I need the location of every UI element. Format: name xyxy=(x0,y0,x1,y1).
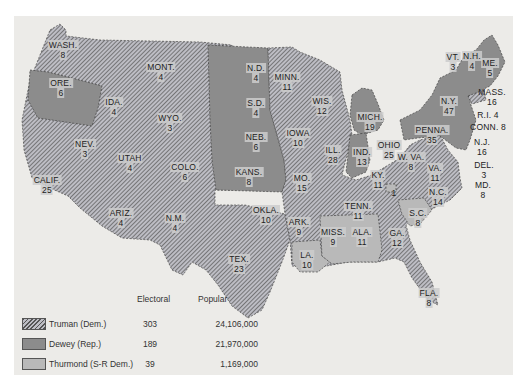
state-label: W. VA.8 xyxy=(397,152,426,172)
state-votes: 3 xyxy=(450,62,457,72)
state-votes: 10 xyxy=(292,138,304,148)
state-label: PENNA.35 xyxy=(415,125,450,145)
state-label: VA.11 xyxy=(427,163,443,183)
state-votes: 6 xyxy=(58,88,65,98)
dark-gray-swatch-icon xyxy=(22,338,46,350)
legend-electoral: 189 xyxy=(140,339,160,349)
state-name: IDA. xyxy=(104,97,123,107)
state-label: OKLA.10 xyxy=(252,205,280,225)
state-callout: MASS. 16 xyxy=(478,87,505,107)
state-callout: R.I. 4 xyxy=(477,110,499,120)
state-callout: CONN. 8 xyxy=(470,122,506,132)
state-votes: 19 xyxy=(364,122,376,132)
state-name: VT. xyxy=(446,52,461,62)
state-name: UTAH xyxy=(117,153,142,163)
state-votes: 9 xyxy=(296,227,303,237)
state-votes: 15 xyxy=(296,183,308,193)
state-votes: 10 xyxy=(260,215,272,225)
state-callout: MD. 8 xyxy=(475,180,491,200)
legend-candidate: Dewey (Rep.) xyxy=(49,339,101,349)
state-name: LA. xyxy=(299,250,314,260)
state-votes: 4 xyxy=(253,108,260,118)
state-label: IOWA10 xyxy=(285,128,310,148)
state-votes: 23 xyxy=(233,264,245,274)
state-name: WASH. xyxy=(48,40,79,50)
state-name: MISS. xyxy=(320,227,346,237)
state-label: LA.10 xyxy=(299,250,314,270)
state-votes: 47 xyxy=(443,106,455,116)
state-votes: 4 xyxy=(172,223,179,233)
state-name: PENNA. xyxy=(415,125,450,135)
state-votes: 8 xyxy=(246,177,253,187)
state-label: IND.13 xyxy=(352,147,372,167)
state-label: UTAH4 xyxy=(117,153,142,173)
state-name: OKLA. xyxy=(252,205,280,215)
state-name: NEB. xyxy=(245,132,268,142)
state-label: COLO.6 xyxy=(170,162,199,182)
state-name: ME. xyxy=(481,58,499,68)
state-votes: 5 xyxy=(487,68,494,78)
state-label: KY.11 xyxy=(370,170,385,190)
state-votes: 8 xyxy=(60,50,67,60)
state-votes: 6 xyxy=(253,142,260,152)
state-name: TEX. xyxy=(228,254,250,264)
state-votes: 12 xyxy=(316,106,328,116)
state-label: ARIZ.4 xyxy=(109,208,134,228)
state-callout: DEL. 3 xyxy=(474,160,494,180)
state-votes: 6 xyxy=(182,172,189,182)
state-votes: 4 xyxy=(118,218,125,228)
state-name: CALIF. xyxy=(33,175,62,185)
state-label: N.D.4 xyxy=(246,63,266,83)
state-votes: 12 xyxy=(391,238,403,248)
state-votes: 11 xyxy=(356,237,367,247)
state-label: ME.5 xyxy=(481,58,499,78)
state-name: COLO. xyxy=(170,162,199,172)
state-label: GA.12 xyxy=(388,228,405,248)
state-name: WIS. xyxy=(311,96,332,106)
state-label: MISS.9 xyxy=(320,227,346,247)
state-votes: 11 xyxy=(281,82,292,92)
state-name: W. VA. xyxy=(397,152,426,162)
state-name: NEV. xyxy=(74,139,96,149)
light-gray-swatch-icon xyxy=(22,358,46,370)
state-name: MONT. xyxy=(146,62,175,72)
state-label: FLA.8 xyxy=(419,288,440,308)
state-label: N.Y.47 xyxy=(440,96,458,116)
state-label: CALIF.25 xyxy=(33,175,62,195)
state-label: ILL.28 xyxy=(325,145,342,165)
hatched-swatch-icon xyxy=(22,318,46,330)
state-label: N.C.14 xyxy=(428,187,448,207)
state-votes: 14 xyxy=(432,197,444,207)
state-votes: 3 xyxy=(82,149,89,159)
legend-popular: 21,970,000 xyxy=(188,339,258,349)
state-votes: 11 xyxy=(429,173,440,183)
state-name: KY. xyxy=(370,170,385,180)
state-label: MICH.19 xyxy=(356,112,383,132)
state-name: N.D. xyxy=(246,63,266,73)
state-name: TENN. xyxy=(344,201,373,211)
state-label: S.C.8 xyxy=(408,208,427,228)
state-name: MINN. xyxy=(273,72,300,82)
state-label: IDA.4 xyxy=(104,97,123,117)
state-label: MONT.4 xyxy=(146,62,175,82)
legend-electoral: 39 xyxy=(140,359,160,369)
state-label: VT.3 xyxy=(446,52,461,72)
legend-row-truman: Truman (Dem.) 303 24,106,000 xyxy=(20,318,265,334)
tennessee-thurmond-vote: 1 xyxy=(392,188,397,198)
state-votes: 4 xyxy=(469,61,476,71)
state-votes: 28 xyxy=(327,155,339,165)
state-votes: 8 xyxy=(426,298,433,308)
state-votes: 13 xyxy=(356,157,368,167)
state-votes: 11 xyxy=(372,180,383,190)
state-name: N.C. xyxy=(428,187,448,197)
state-votes: 4 xyxy=(111,107,118,117)
state-name: N.H. xyxy=(462,51,482,61)
state-label: ALA.11 xyxy=(351,227,372,247)
state-votes: 3 xyxy=(167,123,174,133)
state-name: WYO. xyxy=(157,113,182,123)
state-name: ARIZ. xyxy=(109,208,134,218)
state-votes: 8 xyxy=(408,162,415,172)
state-label: MINN.11 xyxy=(273,72,300,92)
state-name: FLA. xyxy=(419,288,440,298)
legend-row-dewey: Dewey (Rep.) 189 21,970,000 xyxy=(20,338,265,354)
